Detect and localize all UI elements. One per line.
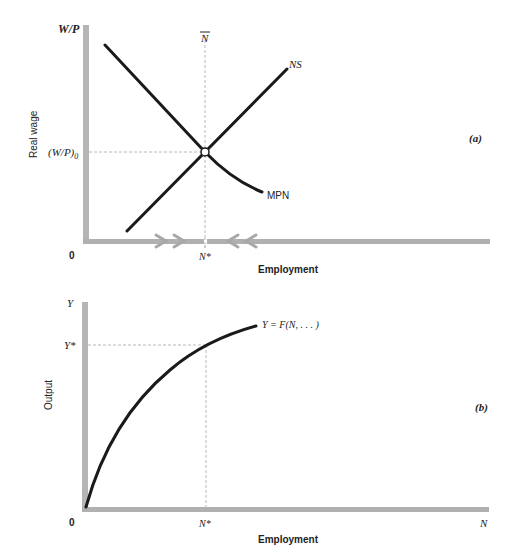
panel-a-x-axis-label: Employment (258, 264, 319, 275)
panel-a-origin-label: 0 (69, 250, 75, 261)
panel-a-y-axis-top-label: W/P (58, 22, 80, 36)
panel-b-nstar-label: N* (198, 518, 211, 529)
panel-a-wp0-label: (W/P)0 (48, 146, 78, 161)
panel-b-y-axis (82, 302, 88, 512)
panel-b-x-axis (82, 507, 489, 512)
panel-a-ns-label: NS (288, 58, 302, 70)
panel-b-production-curve (86, 326, 256, 507)
panel-a-equilibrium-point (201, 148, 209, 156)
panel-a-mpn-label: MPN (267, 190, 289, 201)
panel-a-x-axis (83, 239, 490, 244)
panel-b-production-function: Y Y = F(N, . . . ) Y* Output (b) 0 N* N … (43, 297, 489, 545)
panel-a-y-axis (83, 25, 89, 244)
panel-a-labor-market: W/P N NS (a) (W/P)0 Real wage MPN 0 N* E… (28, 22, 490, 275)
panel-b-x-axis-label: Employment (258, 534, 319, 545)
panel-b-ystar-label: Y* (64, 339, 76, 351)
panel-a-nstar-label: N* (198, 251, 211, 262)
panel-b-panel-label: (b) (475, 401, 488, 414)
panel-a-y-axis-label: Real wage (28, 110, 39, 158)
figure: W/P N NS (a) (W/P)0 Real wage MPN 0 N* E… (0, 0, 512, 559)
panel-a-panel-label: (a) (469, 132, 482, 145)
panel-b-y-axis-label: Output (43, 380, 54, 410)
panel-b-origin-label: 0 (69, 517, 75, 528)
panel-b-y-axis-top-label: Y (67, 297, 75, 309)
panel-b-n-label: N (479, 517, 488, 529)
panel-b-production-label: Y = F(N, . . . ) (262, 319, 319, 331)
panel-a-nbar-label: N (200, 32, 209, 44)
